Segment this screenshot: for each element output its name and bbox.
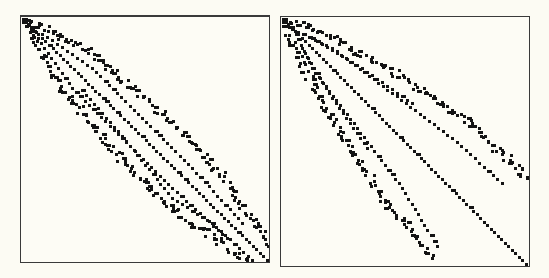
sparsity-plot-right (280, 16, 530, 267)
nonzero-entries (282, 18, 529, 266)
nonzero-entries (22, 18, 269, 262)
sparsity-plot-left (20, 15, 270, 263)
sparsity-pattern-left (21, 17, 269, 262)
sparsity-pattern-right (281, 17, 529, 266)
